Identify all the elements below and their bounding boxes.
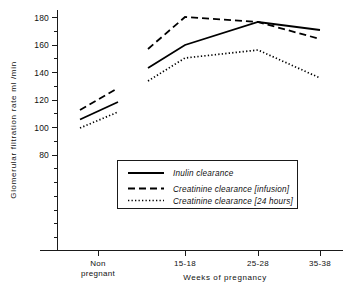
x-tick-label-nonpregnant-line2: pregnant: [81, 269, 115, 278]
y-tick-label-120: 120: [34, 95, 49, 105]
series-pregnancy-curves: [148, 17, 320, 81]
legend-label-creatinine-clearance-24hours: Creatinine clearance [24 hours]: [173, 197, 294, 206]
x-tick-label-nonpregnant-line1: Non: [90, 259, 106, 268]
axis-group: [40, 10, 343, 251]
glomerular-filtration-rate-line-chart: 180 160 140 120 100 80 Glomerular filtra…: [0, 0, 343, 292]
y-tick-label-100: 100: [34, 123, 49, 133]
x-tick-label-25-28: 25-28: [247, 259, 269, 268]
y-tick-label-160: 160: [34, 40, 49, 50]
x-axis-title: Weeks of pregnancy: [183, 273, 267, 282]
legend: Inulin clearance Creatinine clearance [i…: [118, 161, 298, 209]
y-minor-ticks: [54, 31, 58, 237]
series-creatinine-clearance-24hours: [148, 50, 320, 81]
legend-label-creatinine-clearance-infusion: Creatinine clearance [infusion]: [173, 185, 290, 194]
series-creatinine-clearance-infusion: [148, 17, 320, 49]
y-tick-label-80: 80: [39, 150, 49, 160]
series-inulin-clearance: [148, 22, 320, 68]
y-tick-label-180: 180: [34, 13, 49, 23]
nonpregnant-creatinine-infusion-segment: [80, 88, 118, 110]
legend-label-inulin-clearance: Inulin clearance: [173, 169, 234, 178]
nonpregnant-creatinine-24h-segment: [80, 112, 118, 128]
x-tick-label-35-38: 35-38: [309, 259, 331, 268]
y-tick-label-140: 140: [34, 68, 49, 78]
x-tick-label-15-18: 15-18: [174, 259, 196, 268]
nonpregnant-inulin-segment: [80, 102, 118, 120]
series-nonpregnant-segments: [80, 88, 118, 128]
chart-figure: 180 160 140 120 100 80 Glomerular filtra…: [0, 0, 343, 292]
y-axis-title: Glomerular filtration rate ml /min: [9, 61, 18, 199]
y-tick-labels: 180 160 140 120 100 80: [34, 13, 49, 161]
x-ticks: [98, 251, 320, 257]
